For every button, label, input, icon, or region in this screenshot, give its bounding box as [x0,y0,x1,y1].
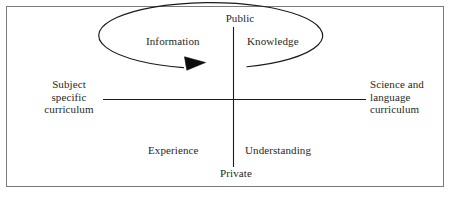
cycle-direction-arrowhead [185,57,206,70]
axis-label-science-and-language-curriculum: Science and language curriculum [370,78,448,116]
quadrant-label-knowledge: Knowledge [247,35,299,48]
axis-label-left-line-1: Subject [36,78,102,91]
axis-label-private: Private [206,167,266,180]
axis-label-right-line-3: curriculum [370,103,448,116]
axis-label-public: Public [210,12,270,25]
axis-label-right-line-2: language [370,91,448,104]
quadrant-label-understanding: Understanding [245,144,311,157]
axis-label-subject-specific-curriculum: Subject specific curriculum [36,78,102,116]
axis-label-right-line-1: Science and [370,78,448,91]
quadrant-label-experience: Experience [148,144,198,157]
quadrant-label-information: Information [146,35,200,48]
axis-label-left-line-2: specific [36,91,102,104]
figure-container: Public Private Subject specific curricul… [0,0,452,197]
axis-label-left-line-3: curriculum [36,103,102,116]
